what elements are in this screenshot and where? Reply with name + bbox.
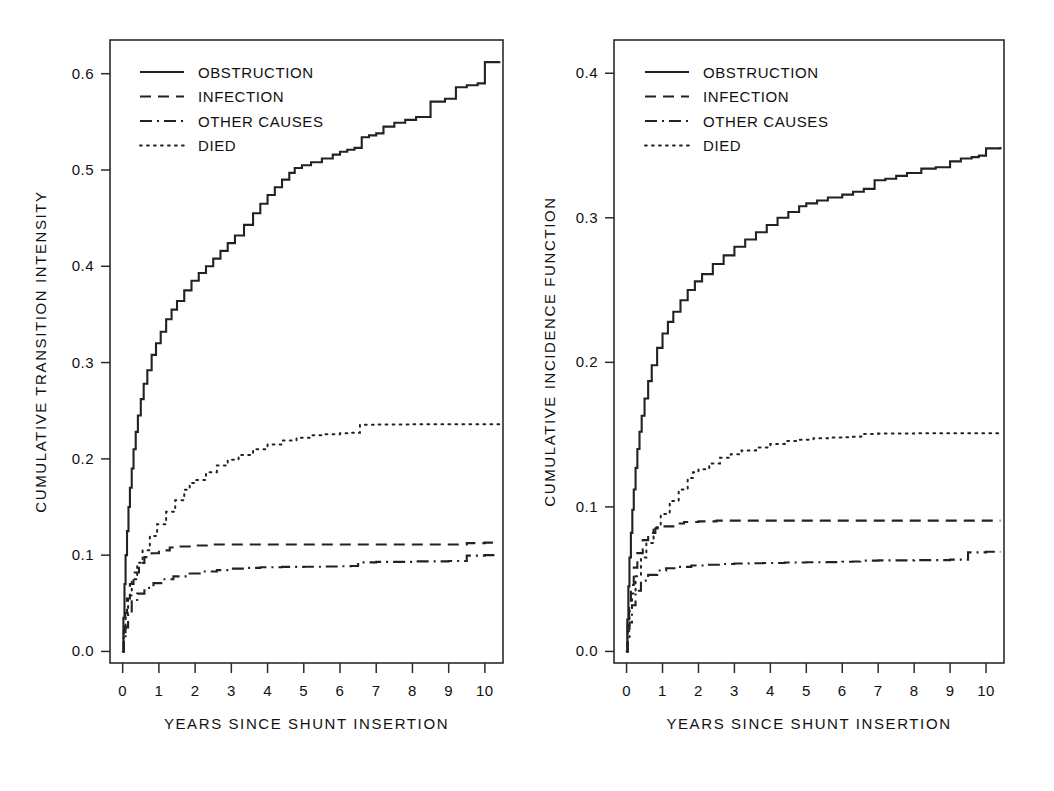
x-tick-label: 4 [263,682,272,699]
y-tick-label: 0.1 [72,546,94,563]
x-tick-label: 5 [299,682,308,699]
x-tick-label: 8 [408,682,417,699]
legend-label-infection: INFECTION [198,88,284,105]
x-tick-label: 7 [372,682,381,699]
series-line-infection [627,521,1001,652]
series-line-died [123,424,500,651]
x-tick-label: 1 [154,682,163,699]
legend-label-died: DIED [703,137,741,154]
x-tick-label: 9 [946,682,955,699]
series-line-other-causes [627,552,1001,652]
x-tick-label: 4 [766,682,775,699]
x-tick-label: 3 [227,682,236,699]
x-tick-label: 10 [476,682,494,699]
y-tick-label: 0.4 [576,64,598,81]
y-tick-label: 0.1 [576,498,598,515]
x-tick-label: 5 [802,682,811,699]
y-axis-title: CUMULATIVE INCIDENCE FUNCTION [541,196,558,506]
x-tick-label: 0 [622,682,631,699]
y-tick-label: 0.0 [72,642,94,659]
legend-label-obstruction: OBSTRUCTION [703,64,819,81]
x-tick-label: 2 [191,682,200,699]
x-axis-title: YEARS SINCE SHUNT INSERTION [666,715,951,732]
legend-label-other-causes: OTHER CAUSES [198,113,324,130]
x-tick-label: 3 [730,682,739,699]
x-tick-label: 6 [336,682,345,699]
y-tick-label: 0.4 [72,257,94,274]
x-tick-label: 7 [874,682,883,699]
plot-right: 0.00.10.20.30.4012345678910YEARS SINCE S… [527,0,1054,791]
plot-left: 0.00.10.20.30.40.50.6012345678910YEARS S… [0,0,527,791]
x-axis-title: YEARS SINCE SHUNT INSERTION [164,715,449,732]
x-tick-label: 0 [118,682,127,699]
y-tick-label: 0.3 [576,209,598,226]
y-tick-label: 0.6 [72,65,94,82]
y-tick-label: 0.3 [72,354,94,371]
y-axis-title: CUMULATIVE TRANSITION INTENSITY [32,190,49,512]
series-line-obstruction [627,147,1001,651]
y-tick-label: 0.5 [72,161,94,178]
legend-label-died: DIED [198,137,236,154]
plot-frame [614,40,1004,663]
series-line-other-causes [123,555,500,651]
panel-left: 0.00.10.20.30.40.50.6012345678910YEARS S… [0,0,527,791]
panel-right: 0.00.10.20.30.4012345678910YEARS SINCE S… [527,0,1054,791]
plot-frame [110,40,503,663]
series-line-obstruction [123,61,500,651]
series-line-infection [123,543,500,652]
y-tick-label: 0.0 [576,642,598,659]
legend-label-obstruction: OBSTRUCTION [198,64,314,81]
x-tick-label: 2 [694,682,703,699]
x-tick-label: 9 [444,682,453,699]
y-tick-label: 0.2 [576,353,598,370]
x-tick-label: 6 [838,682,847,699]
x-tick-label: 8 [910,682,919,699]
y-tick-label: 0.2 [72,450,94,467]
x-tick-label: 1 [658,682,667,699]
series-line-died [627,433,1001,651]
legend-label-other-causes: OTHER CAUSES [703,113,829,130]
legend-label-infection: INFECTION [703,88,789,105]
figure-container: 0.00.10.20.30.40.50.6012345678910YEARS S… [0,0,1054,791]
x-tick-label: 10 [977,682,995,699]
